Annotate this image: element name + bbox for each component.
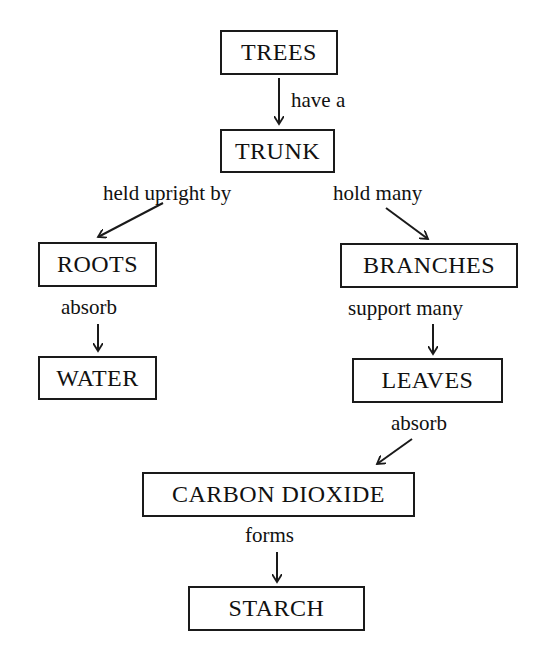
label-forms: forms — [245, 525, 294, 546]
arrow-leaves-co2 — [377, 439, 412, 464]
node-trunk: TRUNK — [220, 129, 335, 173]
label-support-many: support many — [348, 298, 463, 319]
label-absorb-roots: absorb — [61, 297, 117, 318]
label-have-a: have a — [291, 90, 345, 111]
arrows-layer — [0, 0, 541, 656]
node-starch: STARCH — [188, 586, 365, 631]
label-held-upright-by: held upright by — [103, 183, 231, 204]
arrow-trunk-roots — [98, 203, 163, 237]
label-absorb-leaves: absorb — [391, 413, 447, 434]
arrow-trunk-branches — [386, 208, 428, 239]
node-carbon-dioxide: CARBON DIOXIDE — [142, 472, 415, 517]
node-trees: TREES — [220, 30, 338, 75]
node-branches: BRANCHES — [340, 243, 518, 288]
node-roots: ROOTS — [38, 242, 157, 287]
node-leaves: LEAVES — [352, 358, 503, 403]
label-hold-many: hold many — [333, 183, 422, 204]
node-water: WATER — [38, 356, 157, 400]
